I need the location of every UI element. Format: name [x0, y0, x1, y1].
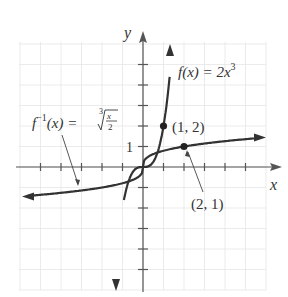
leader-line-inverse	[62, 135, 78, 184]
svg-text:f−1(x) =: f−1(x) =	[32, 112, 77, 132]
y-axis-label: y	[122, 24, 132, 42]
f-inverse-label: f−1(x) = 3 x 2	[32, 107, 118, 132]
svg-text:2: 2	[108, 122, 113, 132]
leader-line-point-2-1	[188, 152, 203, 192]
point-label-1-2: (1, 2)	[172, 119, 205, 136]
f-label: f(x) = 2x3	[178, 61, 236, 81]
point-marker	[180, 143, 187, 150]
point-marker	[160, 122, 167, 129]
axes	[16, 31, 282, 292]
graph-canvas: y x 1 f(x) = 2x3 f−1(x) = 3 x 2 (1, 2) (…	[0, 0, 288, 297]
point-label-2-1: (2, 1)	[191, 196, 224, 213]
x-axis-label: x	[269, 176, 277, 193]
svg-text:3: 3	[99, 107, 103, 116]
y-tick-label-one: 1	[126, 140, 133, 155]
svg-text:x: x	[106, 111, 111, 121]
